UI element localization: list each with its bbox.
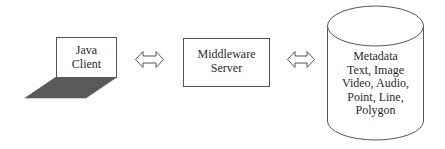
double-arrow-icon xyxy=(288,52,315,68)
label-line: Video, Audio, xyxy=(327,77,424,91)
label-line: Text, Image xyxy=(327,64,424,78)
label-line: Metadata xyxy=(327,50,424,64)
label-line: Client xyxy=(56,57,117,71)
double-arrow-icon xyxy=(136,52,164,68)
label-line: Polygon xyxy=(327,104,424,118)
label-line: Middleware xyxy=(183,47,270,61)
java-client-label: Java Client xyxy=(56,43,117,71)
middleware-server-label: Middleware Server xyxy=(183,47,270,75)
label-line: Point, Line, xyxy=(327,91,424,105)
client-shadow xyxy=(25,77,117,98)
label-line: Server xyxy=(183,61,270,75)
label-line: Java xyxy=(56,43,117,57)
database-label: Metadata Text, Image Video, Audio, Point… xyxy=(327,50,424,118)
